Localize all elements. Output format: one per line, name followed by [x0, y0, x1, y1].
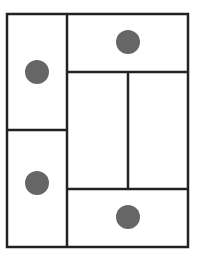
diagram-canvas [0, 0, 200, 257]
dot-right-top [116, 30, 140, 54]
dot-left-top [25, 60, 49, 84]
dot-left-bottom [25, 171, 49, 195]
dot-right-bottom [116, 205, 140, 229]
partition-diagram [0, 0, 200, 257]
divider-lines [7, 14, 188, 247]
